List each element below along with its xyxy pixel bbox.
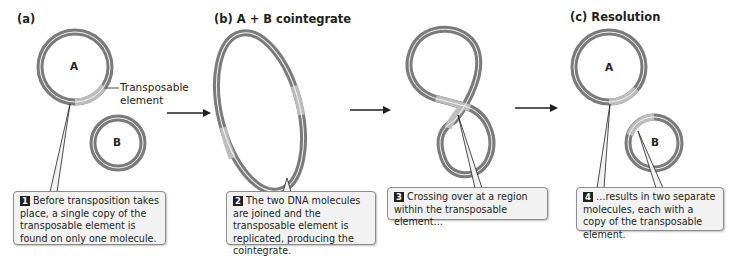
callout-step-4: 4…results in two separate molecules, eac… [576, 187, 724, 231]
molecule-a-letter: A [70, 60, 78, 72]
transposition-diagram: (a) (b) A + B cointegrate (c) Resolution… [0, 0, 729, 256]
step-4-badge: 4 [583, 192, 593, 202]
step-1-text: Before transposition takes place, a sing… [20, 195, 159, 244]
resolved-a-letter: A [605, 61, 613, 73]
panel-a-label: (a) [17, 12, 35, 26]
callout-1-pointer [50, 104, 70, 192]
callout-step-2: 2The two DNA molecules are joined and th… [226, 191, 376, 245]
step-1-badge: 1 [20, 196, 30, 206]
cointegrate-ring [202, 24, 319, 201]
panel-b-label: (b) A + B cointegrate [214, 12, 351, 26]
resolved-b-letter: B [651, 136, 659, 148]
callout-step-3: 3Crossing over at a region within the tr… [387, 187, 548, 220]
panel-c-label: (c) Resolution [570, 10, 660, 24]
te-label-line1: Transposable [120, 81, 189, 94]
step-3-badge: 3 [394, 192, 404, 202]
callout-step-1: 1Before transposition takes place, a sin… [13, 191, 166, 245]
step-2-badge: 2 [233, 196, 243, 206]
callout-4-pointer-a [597, 104, 610, 188]
molecule-b-letter: B [113, 136, 121, 148]
te-label-line2: element [120, 94, 189, 107]
crossover-figure-eight [409, 29, 492, 175]
transposable-element-label: Transposable element [120, 81, 189, 107]
